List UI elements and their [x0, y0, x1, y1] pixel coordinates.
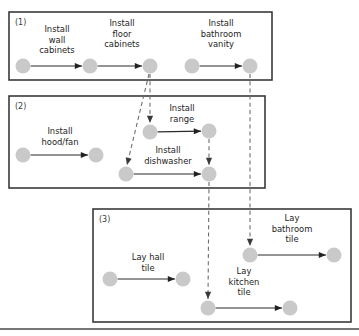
event-nodes-layer [16, 59, 342, 316]
dependency-arrowhead-d1 [147, 116, 153, 123]
event-node-n3 [143, 59, 158, 74]
activity-arrowhead-a9 [275, 305, 282, 311]
activity-label-a7: Lay halltile [132, 252, 165, 273]
dependency-edge-d4 [208, 182, 209, 299]
activity-label-a6: Installdishwasher [144, 145, 192, 166]
activity-arrowhead-a6 [194, 171, 201, 177]
event-node-n7 [89, 148, 104, 163]
event-node-n16 [201, 301, 216, 316]
activity-arrowhead-a4 [81, 152, 88, 158]
event-node-n12 [103, 272, 118, 287]
dependency-arrowhead-d4 [205, 292, 211, 299]
event-node-n14 [243, 248, 258, 263]
activity-label-a9: Laykitchentile [229, 266, 260, 297]
event-node-n10 [119, 167, 134, 182]
activity-label-a2: Installfloorcabinets [104, 18, 140, 49]
event-node-n17 [283, 301, 298, 316]
event-node-n4 [185, 59, 200, 74]
group-tag-g3: (3) [99, 215, 110, 224]
activity-arrowhead-a8 [319, 252, 326, 258]
event-node-n8 [143, 125, 158, 140]
activity-arrowhead-a2 [135, 63, 142, 69]
activity-label-a5: Installrange [169, 103, 194, 124]
precedence-network-diagram: (1)(2)(3) InstallwallcabinetsInstallfloo… [0, 0, 359, 336]
event-node-n13 [176, 272, 191, 287]
group-tag-g2: (2) [15, 102, 26, 111]
activity-label-a8: Laybathroomtile [272, 213, 313, 244]
event-node-n1 [16, 59, 31, 74]
dependency-edge-d2 [127, 74, 149, 165]
dependency-arrowhead-d5 [247, 239, 253, 246]
event-node-n15 [327, 248, 342, 263]
event-node-n9 [202, 124, 217, 139]
event-node-n6 [16, 148, 31, 163]
event-node-n2 [83, 59, 98, 74]
activity-arrowhead-a5 [194, 128, 201, 134]
dependency-arrowhead-d2 [126, 157, 132, 165]
diagram-canvas: (1)(2)(3) InstallwallcabinetsInstallfloo… [0, 0, 359, 336]
dependency-arrowhead-d3 [206, 158, 212, 165]
activity-label-a4: Installhood/fan [41, 126, 78, 147]
event-node-n5 [243, 59, 258, 74]
activity-arrowhead-a7 [168, 276, 175, 282]
activity-label-a3: Installbathroomvanity [201, 18, 242, 49]
activity-arrowhead-a1 [75, 63, 82, 69]
activity-label-a1: Installwallcabinets [39, 24, 75, 55]
event-node-n11 [202, 167, 217, 182]
group-tag-g1: (1) [15, 18, 26, 27]
activity-arrowhead-a3 [235, 63, 242, 69]
